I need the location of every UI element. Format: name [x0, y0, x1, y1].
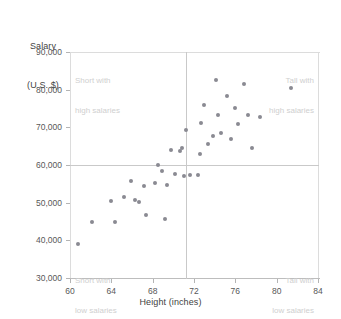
quadrant-label-top-right-line1: Tall with [238, 76, 314, 86]
y-tick-mark [66, 127, 70, 128]
data-point [113, 220, 117, 224]
data-point [206, 142, 210, 146]
y-tick-label: 60,000 [16, 160, 62, 170]
x-tick-mark [194, 279, 195, 283]
x-tick-mark [153, 279, 154, 283]
y-tick-label: 30,000 [16, 273, 62, 283]
y-tick-mark [66, 52, 70, 53]
y-tick-label: 90,000 [16, 47, 62, 57]
data-point [153, 181, 157, 185]
y-axis-title: Salary (U.S. $) [14, 14, 72, 118]
quadrant-label-bottom-right: Tall with low salaries [238, 256, 314, 319]
x-tick-label: 72 [179, 286, 209, 296]
quadrant-label-bottom-left: Short with low salaries [75, 256, 117, 319]
data-point [202, 103, 206, 107]
y-tick-label: 70,000 [16, 122, 62, 132]
data-point [169, 148, 173, 152]
quadrant-label-top-right: Tall with high salaries [238, 56, 314, 136]
y-tick-label: 50,000 [16, 198, 62, 208]
data-point [109, 199, 113, 203]
data-point [219, 131, 223, 135]
data-point [246, 113, 250, 117]
data-point [214, 78, 218, 82]
data-point [199, 121, 203, 125]
reference-line-horizontal [70, 165, 319, 166]
data-point [122, 195, 126, 199]
x-tick-label: 68 [138, 286, 168, 296]
data-point [184, 128, 188, 132]
data-point [229, 137, 233, 141]
data-point [180, 146, 184, 150]
data-point [137, 200, 141, 204]
y-tick-label: 80,000 [16, 85, 62, 95]
data-point [142, 184, 146, 188]
data-point [216, 113, 220, 117]
x-tick-mark [235, 279, 236, 283]
data-point [188, 173, 192, 177]
quadrant-label-bottom-left-line2: low salaries [75, 306, 117, 316]
y-tick-label: 40,000 [16, 235, 62, 245]
y-tick-mark [66, 203, 70, 204]
data-point [211, 134, 215, 138]
quadrant-label-bottom-right-line2: low salaries [238, 306, 314, 316]
data-point [250, 146, 254, 150]
y-tick-mark [66, 240, 70, 241]
quadrant-label-top-left: Short with high salaries [75, 56, 120, 136]
y-tick-mark [66, 90, 70, 91]
data-point [198, 152, 202, 156]
plot-top-border [70, 52, 320, 53]
data-point [90, 220, 94, 224]
data-point [163, 217, 167, 221]
quadrant-label-top-left-line1: Short with [75, 76, 120, 86]
data-point [196, 173, 200, 177]
data-point [225, 94, 229, 98]
x-tick-mark [318, 279, 319, 283]
data-point [182, 174, 186, 178]
data-point [173, 172, 177, 176]
scatter-plot-chart: Salary (U.S. $) Height (inches) 30,00040… [0, 0, 341, 319]
data-point [233, 106, 237, 110]
data-point [258, 115, 262, 119]
quadrant-label-top-left-line2: high salaries [75, 106, 120, 116]
x-tick-mark [70, 279, 71, 283]
data-point [165, 183, 169, 187]
data-point [129, 179, 133, 183]
data-point [160, 169, 164, 173]
data-point [76, 242, 80, 246]
quadrant-label-bottom-right-line1: Tall with [238, 276, 314, 286]
data-point [144, 213, 148, 217]
data-point [156, 163, 160, 167]
y-tick-mark [66, 165, 70, 166]
quadrant-label-bottom-left-line1: Short with [75, 276, 117, 286]
